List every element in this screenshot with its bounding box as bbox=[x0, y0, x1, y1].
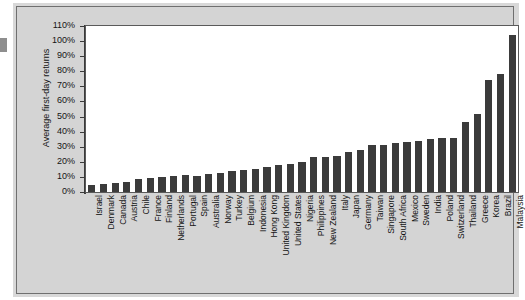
scan-edge-artifact-icon bbox=[0, 38, 7, 52]
bar bbox=[403, 142, 410, 192]
bar bbox=[450, 138, 457, 192]
bar bbox=[228, 171, 235, 192]
x-tick-label: Korea bbox=[491, 195, 501, 218]
x-tick-label: Sweden bbox=[421, 195, 431, 226]
y-tick: 40% bbox=[80, 132, 85, 133]
bar bbox=[147, 178, 154, 192]
bar bbox=[333, 156, 340, 192]
x-tick-label: United States bbox=[293, 195, 303, 246]
x-tick-label: Taiwan bbox=[375, 195, 385, 221]
y-tick: 60% bbox=[80, 101, 85, 102]
bar bbox=[252, 169, 259, 192]
y-tick-label: 10% bbox=[57, 171, 75, 181]
bars-layer bbox=[86, 26, 518, 192]
y-tick: 90% bbox=[80, 56, 85, 57]
y-tick: 70% bbox=[80, 86, 85, 87]
x-tick-label: France bbox=[153, 195, 163, 221]
bar bbox=[368, 145, 375, 192]
bar bbox=[135, 179, 142, 192]
x-tick-label: Mexico bbox=[410, 195, 420, 222]
bar bbox=[392, 143, 399, 192]
x-tick-label: Netherlands bbox=[176, 195, 186, 241]
bar bbox=[380, 145, 387, 192]
x-tick-label: Nigeria bbox=[305, 195, 315, 222]
y-tick-label: 70% bbox=[57, 80, 75, 90]
y-tick: 20% bbox=[80, 162, 85, 163]
x-tick-label: Italy bbox=[340, 195, 350, 211]
x-tick-label: Malaysia bbox=[515, 195, 525, 229]
y-tick: 110% bbox=[80, 26, 85, 27]
bar bbox=[485, 80, 492, 192]
bar bbox=[415, 141, 422, 192]
bar bbox=[123, 182, 130, 192]
x-tick-label: Indonesia bbox=[258, 195, 268, 232]
y-tick-label: 30% bbox=[57, 141, 75, 151]
bar bbox=[158, 177, 165, 192]
x-tick-label: Philippines bbox=[316, 195, 326, 236]
bar bbox=[345, 152, 352, 192]
x-tick-label: Switzerland bbox=[456, 195, 466, 239]
x-tick-label: Brazil bbox=[503, 195, 513, 216]
x-tick-label: Austria bbox=[129, 195, 139, 221]
x-tick-label: India bbox=[433, 195, 443, 213]
bar bbox=[310, 157, 317, 192]
bar bbox=[240, 170, 247, 192]
bar bbox=[438, 138, 445, 192]
y-tick-label: 110% bbox=[53, 20, 75, 30]
bar bbox=[509, 35, 516, 192]
y-tick-label: 50% bbox=[57, 111, 75, 121]
bar bbox=[287, 164, 294, 192]
bar bbox=[322, 157, 329, 192]
bar bbox=[182, 175, 189, 192]
x-tick-label: Hong Kong bbox=[269, 195, 279, 238]
x-tick-label: Portugal bbox=[188, 195, 198, 227]
y-tick: 80% bbox=[80, 71, 85, 72]
bar bbox=[474, 114, 481, 192]
y-tick-label: 0% bbox=[62, 186, 75, 196]
x-tick-label: Spain bbox=[199, 195, 209, 217]
y-tick-label: 60% bbox=[57, 95, 75, 105]
chart-card: Average first-day returns 110%100%90%80%… bbox=[16, 6, 514, 294]
plot-wrapper: 110%100%90%80%70%60%50%40%30%20%10%0% bbox=[85, 25, 519, 193]
bar bbox=[497, 74, 504, 192]
bar bbox=[263, 167, 270, 192]
y-tick: 100% bbox=[80, 41, 85, 42]
x-tick-label: Japan bbox=[351, 195, 361, 218]
x-tick-label: Israel bbox=[94, 195, 104, 216]
bar bbox=[88, 185, 95, 192]
y-tick: 30% bbox=[80, 147, 85, 148]
bar bbox=[100, 184, 107, 192]
bar bbox=[275, 165, 282, 192]
y-tick: 10% bbox=[80, 177, 85, 178]
y-axis-title: Average first-day returns bbox=[41, 33, 51, 163]
x-tick-label: Chile bbox=[141, 195, 151, 214]
x-tick-label: New Zealand bbox=[328, 195, 338, 245]
bar bbox=[170, 176, 177, 192]
x-tick-label: Poland bbox=[445, 195, 455, 221]
x-tick-label: Denmark bbox=[106, 195, 116, 229]
bar bbox=[462, 122, 469, 192]
x-tick-label: Finland bbox=[164, 195, 174, 223]
y-tick-label: 40% bbox=[57, 126, 75, 136]
bar bbox=[427, 139, 434, 192]
bar bbox=[205, 174, 212, 192]
y-tick: 50% bbox=[80, 117, 85, 118]
bar bbox=[357, 150, 364, 192]
bar bbox=[193, 176, 200, 192]
x-tick-label: Belgium bbox=[246, 195, 256, 226]
bar bbox=[217, 173, 224, 192]
x-tick-label: Thailand bbox=[468, 195, 478, 228]
x-axis-labels: IsraelDenmarkCanadaAustriaChileFranceFin… bbox=[85, 195, 519, 295]
bar bbox=[112, 183, 119, 193]
x-tick-label: Canada bbox=[118, 195, 128, 225]
y-tick-label: 20% bbox=[57, 156, 75, 166]
x-tick-label: Germany bbox=[363, 195, 373, 230]
x-tick-label: United Kingdom bbox=[281, 195, 291, 255]
x-tick-label: Singapore bbox=[386, 195, 396, 234]
y-tick-label: 90% bbox=[57, 50, 75, 60]
x-tick-label: Norway bbox=[223, 195, 233, 224]
x-tick-label: South Africa bbox=[398, 195, 408, 241]
x-tick-label: Turkey bbox=[234, 195, 244, 221]
y-tick-label: 100% bbox=[52, 35, 75, 45]
